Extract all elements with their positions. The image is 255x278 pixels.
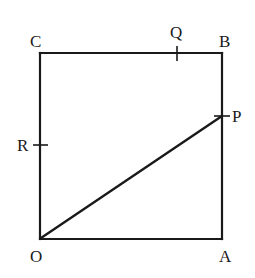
label-R: R [17, 136, 29, 155]
segment-OP [41, 116, 222, 238]
square-diagram: C B Q P R O A [0, 0, 255, 278]
label-Q: Q [170, 23, 182, 42]
label-A: A [219, 247, 232, 266]
label-B: B [219, 32, 230, 51]
label-C: C [30, 32, 41, 51]
label-P: P [232, 107, 241, 126]
label-O: O [30, 247, 42, 266]
